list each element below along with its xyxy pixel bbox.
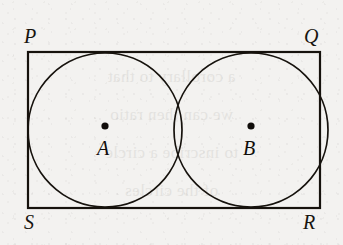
- vertex-label-q: Q: [304, 26, 318, 46]
- figure-canvas: [0, 0, 343, 245]
- circle-a: [28, 53, 182, 207]
- center-dot-a: [101, 122, 108, 129]
- vertex-label-r: R: [303, 212, 315, 232]
- circle-b: [174, 53, 328, 207]
- circle-center-label-b: B: [243, 138, 255, 158]
- vertex-label-s: S: [24, 212, 34, 232]
- vertex-label-p: P: [24, 26, 36, 46]
- circle-center-label-a: A: [97, 138, 109, 158]
- center-dot-b: [247, 122, 254, 129]
- geometry-figure: a corollary to that we can then ratio to…: [0, 0, 343, 245]
